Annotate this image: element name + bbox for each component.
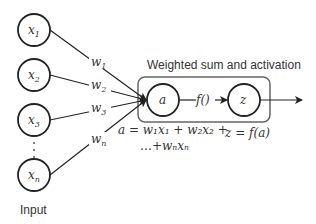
input-nodes: x1 x2 x3 xn	[18, 14, 50, 191]
sum-equation-line2: …+wₙxₙ	[140, 139, 189, 153]
sum-node-label: a	[159, 93, 166, 107]
input-label: Input	[20, 203, 47, 217]
sum-equation-line1: a = w₁x₁ + w₂x₂ +	[118, 123, 228, 137]
activation-node-label: z	[239, 93, 247, 107]
weight-labels-detailed: w2 w3 wn	[89, 78, 111, 148]
activation-equation: z = f(a)	[224, 126, 270, 140]
diagram-title: Weighted sum and activation	[147, 58, 301, 72]
neuron-diagram: Weighted sum and activation w1 w2 w3 wn …	[0, 0, 316, 224]
activation-edge-label: f()	[195, 93, 210, 107]
ellipsis-dots	[33, 142, 35, 158]
